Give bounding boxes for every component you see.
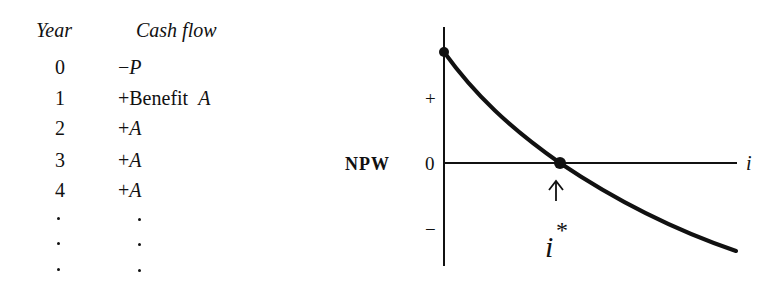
npw-label: NPW xyxy=(345,154,390,174)
root-point xyxy=(554,157,566,169)
npw-curve xyxy=(444,52,736,251)
npw-chart: NPW 0 + − i i * xyxy=(0,0,781,291)
start-point xyxy=(439,47,449,57)
istar-superscript: * xyxy=(556,217,568,243)
zero-tick-label: 0 xyxy=(425,153,435,174)
plus-tick-label: + xyxy=(425,88,436,109)
x-axis-label: i xyxy=(746,152,752,174)
minus-tick-label: − xyxy=(425,219,436,240)
istar-label: i xyxy=(545,230,553,263)
